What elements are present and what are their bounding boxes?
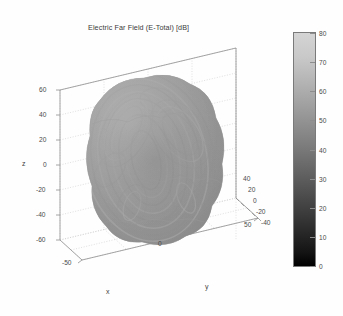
z-tick-label-20: 20 bbox=[39, 136, 46, 143]
x-tick-label-50: 50 bbox=[244, 221, 251, 228]
page-title: Electric Far Field (E-Total) [dB] bbox=[88, 23, 189, 32]
z-tick-label-neg40: -40 bbox=[36, 211, 46, 218]
colorbar-tick-50: 50 bbox=[319, 117, 326, 124]
z-tick-label-neg60: -60 bbox=[36, 236, 46, 243]
colorbar-notch bbox=[310, 91, 315, 92]
colorbar-tick-0: 0 bbox=[319, 263, 323, 270]
x-tick-label-neg50: -50 bbox=[62, 259, 72, 266]
colorbar[interactable]: 80 70 60 50 40 30 20 10 0 bbox=[293, 32, 343, 270]
z-tick-label-60: 60 bbox=[39, 86, 46, 93]
figure-canvas: Electric Far Field (E-Total) [dB] bbox=[0, 0, 343, 316]
colorbar-notch bbox=[310, 266, 315, 267]
y-tick-label-neg40: -40 bbox=[261, 219, 271, 226]
colorbar-tick-30: 30 bbox=[319, 176, 326, 183]
colorbar-notch bbox=[310, 150, 315, 151]
z-tick-label-0: 0 bbox=[43, 161, 47, 168]
axes-3d[interactable]: 60 40 20 0 -20 -40 -60 z -50 0 50 x -40 … bbox=[40, 38, 265, 288]
colorbar-notch bbox=[310, 237, 315, 238]
y-tick-label-40: 40 bbox=[243, 175, 250, 182]
x-axis-label: x bbox=[106, 288, 110, 295]
colorbar-notch bbox=[310, 208, 315, 209]
colorbar-notch bbox=[310, 120, 315, 121]
x-tick-label-0: 0 bbox=[158, 240, 162, 247]
colorbar-tick-80: 80 bbox=[319, 30, 326, 37]
colorbar-notch bbox=[310, 62, 315, 63]
z-tick-marks bbox=[56, 90, 60, 240]
far-field-surface bbox=[61, 60, 240, 260]
y-tick-label-0: 0 bbox=[253, 197, 257, 204]
colorbar-tick-60: 60 bbox=[319, 88, 326, 95]
colorbar-notch bbox=[310, 179, 315, 180]
z-tick-label-neg20: -20 bbox=[36, 186, 46, 193]
colorbar-tick-70: 70 bbox=[319, 59, 326, 66]
colorbar-tick-10: 10 bbox=[319, 234, 326, 241]
z-tick-label-40: 40 bbox=[39, 111, 46, 118]
y-axis-label: y bbox=[205, 283, 209, 290]
y-tick-label-20: 20 bbox=[248, 186, 255, 193]
z-axis-label: z bbox=[22, 160, 26, 167]
colorbar-tick-40: 40 bbox=[319, 147, 326, 154]
plot-surface-svg bbox=[40, 38, 265, 288]
colorbar-tick-20: 20 bbox=[319, 205, 326, 212]
y-tick-label-neg20: -20 bbox=[256, 208, 266, 215]
colorbar-notch bbox=[310, 33, 315, 34]
